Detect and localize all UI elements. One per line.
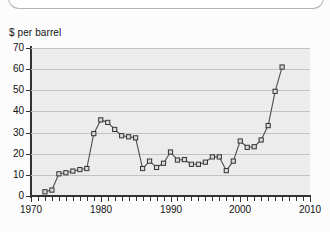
y-axis-tick (26, 154, 31, 155)
x-axis-minor-tick (177, 197, 178, 201)
plot-area (31, 48, 310, 196)
gridline (31, 154, 310, 155)
gridline (31, 133, 310, 134)
x-axis-minor-tick (247, 197, 248, 201)
page-background: $ per barrel 010203040506070 19701980199… (0, 0, 330, 232)
x-axis-minor-tick (66, 197, 67, 201)
x-axis-minor-tick (157, 197, 158, 201)
x-axis-tick-label: 1970 (11, 204, 51, 216)
gridline (31, 175, 310, 176)
gridline (31, 111, 310, 112)
x-axis-minor-tick (136, 197, 137, 201)
x-axis-minor-tick (282, 197, 283, 201)
x-axis-minor-tick (233, 197, 234, 201)
gridline (31, 48, 310, 49)
x-axis-major-tick (310, 197, 311, 202)
y-axis-tick-label: 40 (0, 106, 24, 116)
x-axis-minor-tick (164, 197, 165, 201)
x-axis-tick-label: 2000 (220, 204, 260, 216)
x-axis-tick-label: 1980 (81, 204, 121, 216)
x-axis-minor-tick (38, 197, 39, 201)
x-axis-minor-tick (73, 197, 74, 201)
x-axis-minor-tick (115, 197, 116, 201)
y-axis-tick-label: 50 (0, 85, 24, 95)
gridline (31, 90, 310, 91)
x-axis-major-tick (240, 197, 241, 202)
y-axis-tick (26, 90, 31, 91)
x-axis-minor-tick (184, 197, 185, 201)
x-axis-minor-tick (129, 197, 130, 201)
y-axis-tick-label: 70 (0, 43, 24, 53)
x-axis-minor-tick (261, 197, 262, 201)
y-axis-tick (26, 175, 31, 176)
x-axis-minor-tick (143, 197, 144, 201)
y-axis-tick-label: 60 (0, 64, 24, 74)
x-axis-minor-tick (191, 197, 192, 201)
x-axis-minor-tick (122, 197, 123, 201)
x-axis-minor-tick (52, 197, 53, 201)
x-axis-minor-tick (296, 197, 297, 201)
x-axis-minor-tick (87, 197, 88, 201)
x-axis-minor-tick (268, 197, 269, 201)
x-axis-major-tick (171, 197, 172, 202)
y-axis-tick (26, 111, 31, 112)
x-axis-minor-tick (108, 197, 109, 201)
y-axis-tick-label: 10 (0, 170, 24, 180)
x-axis-minor-tick (226, 197, 227, 201)
x-axis-minor-tick (205, 197, 206, 201)
x-axis-major-tick (31, 197, 32, 202)
y-axis-tick-label: 20 (0, 149, 24, 159)
y-axis-title: $ per barrel (9, 27, 61, 39)
x-axis-minor-tick (289, 197, 290, 201)
x-axis-minor-tick (254, 197, 255, 201)
x-axis-minor-tick (303, 197, 304, 201)
oil-price-chart: $ per barrel 010203040506070 19701980199… (0, 0, 330, 232)
y-axis-tick (26, 48, 31, 49)
y-axis-tick-label: 0 (0, 191, 24, 201)
x-axis-minor-tick (59, 197, 60, 201)
y-axis-tick (26, 69, 31, 70)
gridline (31, 69, 310, 70)
x-axis-minor-tick (198, 197, 199, 201)
x-axis-minor-tick (219, 197, 220, 201)
x-axis-minor-tick (80, 197, 81, 201)
x-axis-major-tick (101, 197, 102, 202)
x-axis-tick-label: 1990 (151, 204, 191, 216)
x-axis-minor-tick (45, 197, 46, 201)
x-axis-minor-tick (150, 197, 151, 201)
x-axis-minor-tick (275, 197, 276, 201)
y-axis-tick-label: 30 (0, 128, 24, 138)
y-axis-tick (26, 133, 31, 134)
x-axis-minor-tick (94, 197, 95, 201)
x-axis-tick-label: 2010 (290, 204, 330, 216)
x-axis-minor-tick (212, 197, 213, 201)
